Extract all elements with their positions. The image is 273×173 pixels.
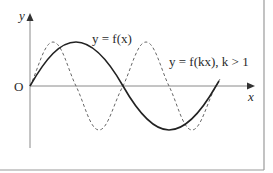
x-axis-label: x	[247, 89, 254, 104]
origin-label: O	[14, 79, 23, 94]
x-axis	[30, 83, 255, 90]
y-axis-label: y	[17, 8, 25, 23]
curve-f-kx-label: y = f(kx), k > 1	[169, 54, 249, 69]
y-axis-arrow-icon	[27, 13, 34, 21]
diagram-frame: y x O y = f(x) y = f(kx), k > 1	[0, 0, 273, 173]
curve-f-x-label: y = f(x)	[92, 31, 132, 46]
